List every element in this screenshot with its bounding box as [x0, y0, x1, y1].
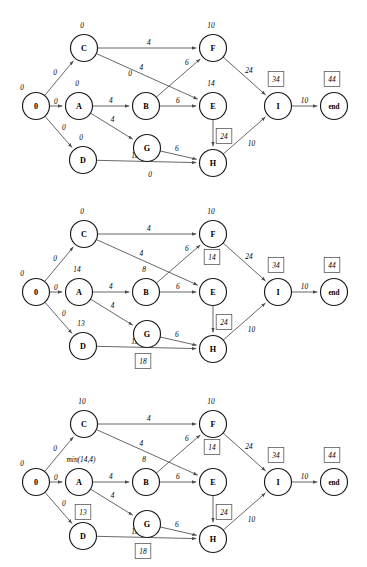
svg-text:44: 44	[328, 75, 336, 84]
node-label-I: I	[276, 102, 279, 111]
node-D[interactable]: D	[70, 523, 97, 550]
node-label-A: A	[76, 102, 82, 111]
svg-text:0: 0	[20, 459, 24, 468]
label-d-h-boxed: 18	[135, 544, 151, 559]
edge-weight-S-C: 0	[53, 444, 57, 453]
edge-S-C	[45, 247, 74, 282]
node-S[interactable]: 0	[23, 93, 50, 120]
svg-text:0: 0	[148, 170, 152, 179]
edge-weight-S-A: 0	[54, 283, 58, 292]
node-value-A: min(14,4)	[67, 455, 96, 464]
label-d-h-zero: 0	[148, 170, 152, 179]
edge-weight-S-D: 0	[62, 499, 66, 508]
node-layer: 0ABCDEFGHIend	[23, 221, 348, 363]
node-value-S: 0	[20, 269, 24, 278]
edge-F-I	[223, 57, 265, 95]
node-I[interactable]: I	[265, 93, 292, 120]
node-A[interactable]: A	[66, 279, 93, 306]
node-G[interactable]: G	[134, 321, 161, 348]
svg-text:18: 18	[139, 357, 147, 366]
node-I[interactable]: I	[265, 279, 292, 306]
node-I[interactable]: I	[265, 469, 292, 496]
node-F[interactable]: F	[200, 35, 227, 62]
node-C[interactable]: C	[71, 221, 98, 248]
node-label-H: H	[210, 159, 217, 168]
svg-text:24: 24	[220, 132, 228, 141]
node-D[interactable]: D	[70, 333, 97, 360]
edge-weight-B-F: 6	[185, 434, 189, 443]
svg-text:14: 14	[208, 443, 216, 452]
node-F[interactable]: F	[200, 411, 227, 438]
node-label-B: B	[143, 288, 149, 297]
edge-weight-H-I: 10	[248, 515, 256, 524]
edge-weight-S-C: 0	[53, 68, 57, 77]
edge-weight-S-D: 0	[62, 123, 66, 132]
node-value-B: 8	[142, 265, 146, 274]
node-B[interactable]: B	[133, 469, 160, 496]
edge-S-D	[45, 492, 72, 523]
node-value-C: 10	[78, 397, 86, 406]
node-value-S: 0	[20, 83, 24, 92]
svg-text:44: 44	[328, 261, 336, 270]
node-label-C: C	[81, 44, 87, 53]
node-value-F: 10	[207, 207, 215, 216]
label-f-e-boxed: 14	[204, 440, 220, 455]
edge-weight-H-I: 10	[248, 325, 256, 334]
svg-text:14: 14	[207, 79, 215, 88]
node-value-D: 13	[77, 319, 85, 328]
node-value-end: 44	[324, 72, 340, 87]
node-A[interactable]: A	[66, 93, 93, 120]
svg-text:0: 0	[128, 69, 132, 78]
node-D[interactable]: D	[70, 147, 97, 174]
diagram-panel-1: 0004444661161024101000001014344400240ABC…	[0, 0, 367, 189]
node-label-end: end	[328, 289, 339, 297]
edge-weight-C-E: 4	[140, 63, 144, 72]
node-value-F: 10	[207, 21, 215, 30]
node-E[interactable]: E	[200, 93, 227, 120]
node-B[interactable]: B	[133, 93, 160, 120]
node-end[interactable]: end	[321, 279, 348, 306]
node-H[interactable]: H	[200, 150, 227, 177]
figure-page: 0004444661161024101000001014344400240ABC…	[0, 0, 367, 567]
edge-S-D	[45, 302, 72, 333]
label-e-h-boxed: 24	[216, 505, 232, 520]
label-c-e-zero: 0	[128, 69, 132, 78]
node-label-S: 0	[34, 478, 38, 487]
node-H[interactable]: H	[200, 526, 227, 553]
svg-text:0: 0	[20, 269, 24, 278]
node-label-E: E	[210, 478, 216, 487]
svg-text:13: 13	[77, 319, 85, 328]
node-A[interactable]: A	[66, 469, 93, 496]
svg-text:min(14,4): min(14,4)	[67, 455, 96, 464]
node-value-S: 0	[20, 459, 24, 468]
label-e-h-boxed: 24	[216, 129, 232, 144]
node-label-F: F	[210, 420, 215, 429]
node-H[interactable]: H	[200, 336, 227, 363]
node-value-I: 34	[268, 258, 284, 273]
edge-B-F	[156, 59, 200, 97]
node-label-D: D	[80, 342, 86, 351]
node-end[interactable]: end	[321, 93, 348, 120]
node-G[interactable]: G	[134, 135, 161, 162]
node-label-B: B	[143, 478, 149, 487]
node-label-C: C	[81, 230, 87, 239]
node-label-F: F	[210, 44, 215, 53]
node-E[interactable]: E	[200, 279, 227, 306]
node-C[interactable]: C	[71, 411, 98, 438]
svg-text:34: 34	[271, 451, 280, 460]
label-d-boxed: 13	[75, 505, 91, 520]
node-C[interactable]: C	[71, 35, 98, 62]
node-S[interactable]: 0	[23, 279, 50, 306]
node-label-I: I	[276, 288, 279, 297]
node-G[interactable]: G	[134, 511, 161, 538]
node-E[interactable]: E	[200, 469, 227, 496]
node-value-E: 14	[207, 79, 215, 88]
node-value-end: 44	[324, 258, 340, 273]
node-end[interactable]: end	[321, 469, 348, 496]
edge-weight-G-H: 6	[175, 520, 179, 529]
edge-weight-C-F: 4	[147, 414, 151, 423]
edge-weight-A-G: 4	[111, 115, 115, 124]
node-F[interactable]: F	[200, 221, 227, 248]
node-B[interactable]: B	[133, 279, 160, 306]
node-S[interactable]: 0	[23, 469, 50, 496]
